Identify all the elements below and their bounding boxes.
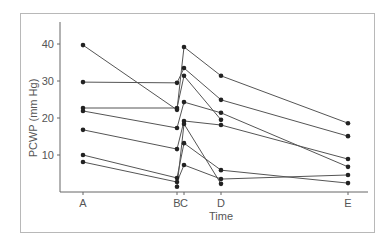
data-point-marker	[182, 66, 187, 71]
y-tick-label: 40	[42, 38, 54, 50]
series-line	[177, 124, 221, 187]
data-point-marker	[182, 163, 187, 168]
data-point-marker	[81, 160, 86, 165]
data-point-marker	[175, 106, 180, 111]
data-point-marker	[346, 157, 351, 162]
data-point-marker	[175, 126, 180, 131]
data-point-marker	[219, 118, 224, 123]
x-axis-title: Time	[209, 210, 233, 222]
data-point-marker	[175, 185, 180, 190]
data-point-marker	[182, 122, 187, 127]
data-point-marker	[346, 121, 351, 126]
data-point-marker	[182, 141, 187, 146]
y-tick-label: 10	[42, 149, 54, 161]
data-point-marker	[175, 81, 180, 86]
data-point-marker	[81, 43, 86, 48]
x-tick-label: E	[344, 197, 351, 209]
data-point-marker	[219, 182, 224, 187]
data-point-marker	[182, 74, 187, 79]
data-point-marker	[346, 134, 351, 139]
data-point-marker	[219, 98, 224, 103]
pcwp-line-chart: 10203040ABCDE PCWP (mm Hg) Time	[0, 0, 389, 246]
data-point-marker	[219, 111, 224, 116]
data-point-marker	[219, 168, 224, 173]
data-point-marker	[175, 176, 180, 181]
x-tick-label: A	[79, 197, 87, 209]
x-tick-label: C	[180, 197, 188, 209]
y-tick-label: 20	[42, 112, 54, 124]
data-point-marker	[81, 80, 86, 85]
data-point-marker	[346, 173, 351, 178]
data-point-marker	[81, 109, 86, 114]
data-point-marker	[346, 165, 351, 170]
y-axis-title: PCWP (mm Hg)	[27, 79, 39, 158]
y-tick-label: 30	[42, 75, 54, 87]
data-point-marker	[81, 128, 86, 133]
series-markers	[81, 43, 351, 189]
series-lines	[83, 45, 348, 187]
data-point-marker	[182, 100, 187, 105]
data-point-marker	[219, 123, 224, 128]
data-point-marker	[219, 74, 224, 79]
series-line	[83, 68, 348, 136]
data-point-marker	[219, 177, 224, 182]
x-tick-label: D	[217, 197, 225, 209]
series-line	[83, 121, 348, 159]
series-line	[83, 102, 348, 167]
data-point-marker	[182, 45, 187, 50]
data-point-marker	[175, 180, 180, 185]
data-point-marker	[346, 181, 351, 186]
data-point-marker	[175, 147, 180, 152]
data-point-marker	[81, 153, 86, 158]
